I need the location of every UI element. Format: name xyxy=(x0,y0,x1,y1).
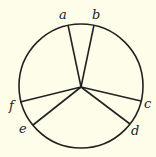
label-c: c xyxy=(144,96,152,111)
label-b: b xyxy=(92,7,100,22)
label-d: d xyxy=(131,123,139,138)
circle-diagram: abcdef xyxy=(0,0,156,157)
label-a: a xyxy=(59,7,67,22)
point-labels: abcdef xyxy=(8,7,152,138)
label-f: f xyxy=(8,98,16,113)
segment-b xyxy=(81,25,94,87)
label-e: e xyxy=(19,121,27,136)
segment-a xyxy=(68,25,81,87)
